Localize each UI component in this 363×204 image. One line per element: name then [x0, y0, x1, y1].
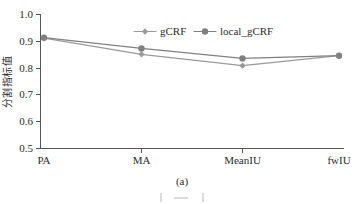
legend-label-local-gcrf: local_gCRF: [220, 25, 273, 37]
figure-panel: 分割指标值 0.5 0.6 0.7 0.8 0.9 1.0: [0, 0, 363, 204]
y-axis-ticks: [36, 15, 41, 149]
x-tick-label: MeanIU: [224, 154, 261, 166]
chart-legend: gCRF local_gCRF: [134, 25, 273, 37]
data-point-marker: [336, 52, 342, 58]
x-tick-label: MA: [133, 154, 151, 166]
figure-caption: (a): [176, 175, 189, 188]
x-tick-label: fwIU: [327, 154, 350, 166]
y-axis-label: 分割指标值: [1, 56, 13, 109]
x-tick-label: PA: [37, 154, 50, 166]
y-tick-label: 0.9: [19, 35, 33, 47]
legend-marker-circle-icon: [202, 28, 208, 34]
y-tick-label: 0.8: [19, 62, 33, 74]
y-tick-label: 0.6: [19, 115, 33, 127]
data-point-marker: [138, 51, 144, 57]
y-axis-tick-labels: 0.5 0.6 0.7 0.8 0.9 1.0: [19, 8, 33, 154]
legend-marker-diamond-icon: [142, 28, 148, 35]
line-chart: 分割指标值 0.5 0.6 0.7 0.8 0.9 1.0: [0, 0, 363, 204]
data-point-marker: [239, 55, 245, 61]
data-point-marker: [138, 45, 144, 51]
y-tick-label: 0.5: [19, 142, 33, 154]
data-point-marker: [239, 62, 245, 68]
legend-label-gcrf: gCRF: [160, 25, 186, 37]
y-tick-label: 0.7: [19, 88, 33, 100]
y-tick-label: 1.0: [19, 8, 33, 20]
data-point-marker: [41, 34, 47, 40]
series-line-local-gcrf: [44, 38, 339, 59]
series-layer: [41, 34, 342, 68]
x-axis-ticks: [142, 149, 243, 154]
x-axis-tick-labels: PA MA MeanIU fwIU: [37, 154, 350, 166]
